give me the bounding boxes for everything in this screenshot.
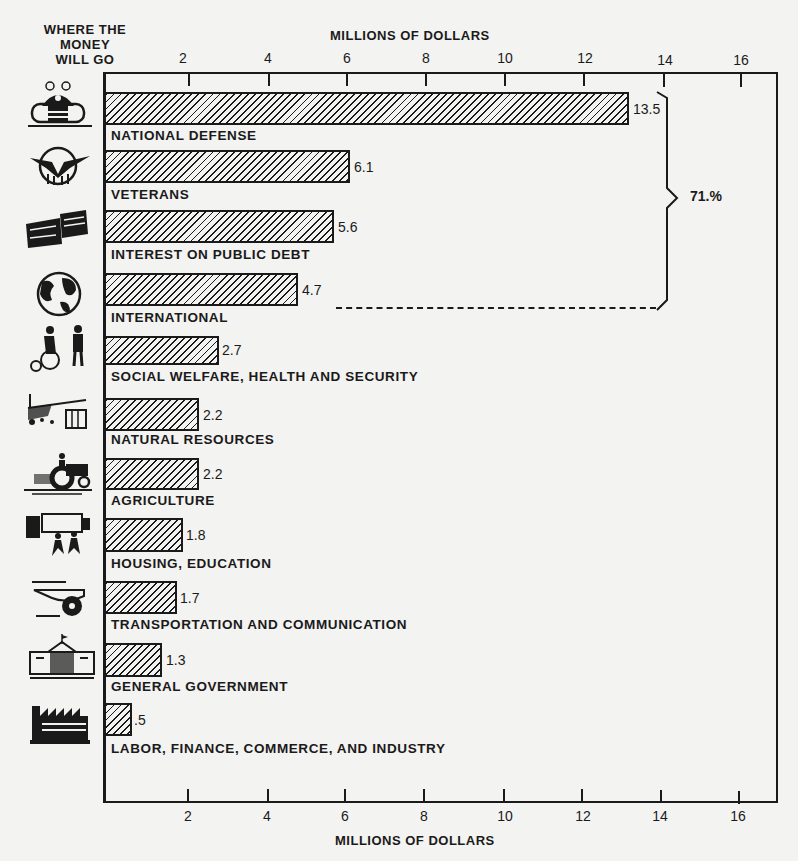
bar-transportation-communication xyxy=(104,581,177,614)
brace-percent-label: 71.% xyxy=(690,188,722,204)
bottom-tick xyxy=(267,789,269,802)
top-tick xyxy=(504,73,506,86)
category-label: VETERANS xyxy=(111,187,189,202)
dam-landscape-icon xyxy=(22,390,92,440)
bar-international xyxy=(104,273,298,306)
top-tick-label-8: 8 xyxy=(411,50,441,66)
top-tick xyxy=(268,73,270,86)
bar-national-defense xyxy=(104,92,629,125)
bottom-tick-label-4: 4 xyxy=(252,808,282,824)
tank-icon xyxy=(26,80,96,130)
bottom-tick-label-8: 8 xyxy=(409,808,439,824)
bottom-tick xyxy=(187,789,189,802)
bottom-tick xyxy=(738,791,740,804)
category-label: NATURAL RESOURCES xyxy=(111,432,274,447)
value-label: 2.2 xyxy=(203,466,222,482)
value-label: 1.7 xyxy=(180,590,199,606)
brace-icon xyxy=(655,90,691,316)
tractor-icon xyxy=(22,452,92,502)
category-label: GENERAL GOVERNMENT xyxy=(111,679,288,694)
bar-social-welfare-health-security xyxy=(104,336,219,365)
bottom-tick xyxy=(344,789,346,802)
top-tick-label-4: 4 xyxy=(253,50,283,66)
bar-general-government xyxy=(104,643,162,677)
bottom-tick xyxy=(660,790,662,803)
chart-title-line-2: WILL GO xyxy=(20,52,150,67)
bar-interest-on-public-debt xyxy=(104,210,334,243)
bottom-tick xyxy=(581,789,583,802)
top-tick xyxy=(188,73,190,86)
value-label: 1.3 xyxy=(166,652,185,668)
value-label: 2.7 xyxy=(222,342,241,358)
category-label: SOCIAL WELFARE, HEALTH AND SECURITY xyxy=(111,369,418,384)
school-children-icon xyxy=(22,510,92,560)
top-tick-label-14: 14 xyxy=(650,52,680,68)
top-tick xyxy=(346,73,348,86)
top-tick xyxy=(663,74,665,87)
bottom-tick xyxy=(423,789,425,802)
bottom-tick-label-10: 10 xyxy=(490,808,520,824)
veterans-eagle-icon xyxy=(26,144,96,194)
category-label: INTERNATIONAL xyxy=(111,310,228,325)
value-label: 6.1 xyxy=(354,159,373,175)
bar-housing-education xyxy=(104,518,183,552)
wheel-transport-icon xyxy=(26,578,96,628)
top-tick xyxy=(740,74,742,87)
wheelchair-people-icon xyxy=(26,324,96,374)
value-label: 1.8 xyxy=(186,527,205,543)
category-label: TRANSPORTATION AND COMMUNICATION xyxy=(111,617,407,632)
category-label: INTEREST ON PUBLIC DEBT xyxy=(111,247,310,262)
factory-icon xyxy=(30,700,100,750)
top-tick-label-16: 16 xyxy=(726,52,756,68)
bottom-tick-label-2: 2 xyxy=(173,808,203,824)
capitol-building-icon xyxy=(26,634,96,684)
category-label: NATIONAL DEFENSE xyxy=(111,128,257,143)
category-label: AGRICULTURE xyxy=(111,493,215,508)
top-tick-label-10: 10 xyxy=(490,50,520,66)
category-label: HOUSING, EDUCATION xyxy=(111,556,272,571)
top-tick xyxy=(425,73,427,86)
bar-labor-finance-commerce-industry xyxy=(104,703,132,736)
top-tick-label-2: 2 xyxy=(168,50,198,66)
category-label: LABOR, FINANCE, COMMERCE, AND INDUSTRY xyxy=(111,741,446,756)
brace-dashed-leader xyxy=(336,307,656,309)
bottom-tick-label-12: 12 xyxy=(568,808,598,824)
value-label: .5 xyxy=(134,712,146,728)
bottom-tick-label-6: 6 xyxy=(330,808,360,824)
bottom-tick-label-14: 14 xyxy=(645,808,675,824)
top-tick xyxy=(583,73,585,86)
top-tick-label-12: 12 xyxy=(570,50,600,66)
chart-title: WHERE THE MONEY WILL GO xyxy=(20,22,150,67)
value-label: 4.7 xyxy=(302,282,321,298)
money-stack-icon xyxy=(22,208,92,258)
bar-agriculture xyxy=(104,458,199,490)
bar-natural-resources xyxy=(104,398,199,431)
bottom-tick-label-16: 16 xyxy=(723,808,753,824)
top-axis-title: MILLIONS OF DOLLARS xyxy=(330,28,490,43)
bottom-axis-title: MILLIONS OF DOLLARS xyxy=(335,833,495,848)
bar-veterans xyxy=(104,150,350,183)
bottom-tick xyxy=(503,789,505,802)
value-label: 2.2 xyxy=(203,407,222,423)
value-label: 5.6 xyxy=(338,219,357,235)
top-tick-label-6: 6 xyxy=(332,50,362,66)
globe-icon xyxy=(26,270,96,320)
chart-title-line-1: WHERE THE MONEY xyxy=(20,22,150,52)
